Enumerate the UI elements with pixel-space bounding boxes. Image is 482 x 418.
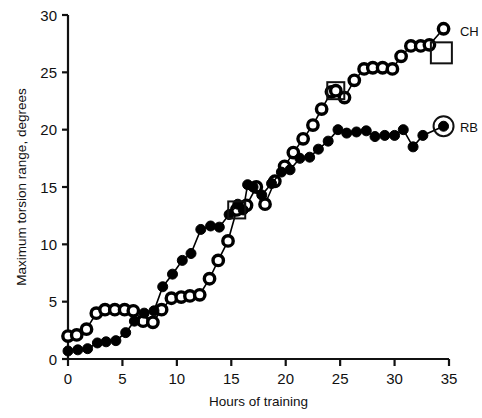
data-point-rb-13: [186, 249, 196, 259]
data-point-rb-9: [149, 306, 159, 316]
data-point-rb-29: [323, 136, 333, 146]
data-point-rb-23: [267, 179, 277, 189]
data-point-rb-32: [351, 127, 361, 137]
data-point-rb-8: [139, 308, 149, 318]
data-point-rb-21: [248, 182, 258, 192]
data-point-rb-6: [121, 328, 131, 338]
data-point-ch-25: [298, 134, 308, 144]
data-point-rb-33: [361, 126, 371, 136]
data-point-rb-0: [63, 346, 73, 356]
x-tick-label-25: 25: [332, 370, 349, 387]
data-point-ch-2: [81, 324, 91, 334]
data-point-ch-35: [387, 64, 397, 74]
data-point-rb-11: [168, 269, 178, 279]
y-axis-title: Maximum torsion range, degrees: [14, 88, 29, 286]
data-point-rb-10: [158, 282, 168, 292]
data-point-ch-39: [424, 40, 434, 50]
x-tick-label-35: 35: [441, 370, 458, 387]
data-point-ch-7: [128, 306, 138, 316]
y-tick-label-0: 0: [49, 351, 57, 368]
x-tick-label-15: 15: [223, 370, 240, 387]
data-point-ch-26: [308, 120, 318, 130]
y-tick-label-20: 20: [40, 121, 57, 138]
x-tick-label-10: 10: [169, 370, 186, 387]
data-point-rb-22: [257, 190, 267, 200]
y-tick-label-25: 25: [40, 64, 57, 81]
x-tick-label-0: 0: [64, 370, 72, 387]
data-point-ch-21: [260, 199, 270, 209]
data-point-rb-1: [73, 345, 83, 355]
data-point-ch-31: [349, 75, 359, 85]
data-point-rb-7: [129, 316, 139, 326]
data-point-ch-40: [438, 24, 448, 34]
series-label-ch: CH: [460, 24, 479, 39]
data-point-ch-27: [316, 104, 326, 114]
y-tick-label-10: 10: [40, 236, 57, 253]
data-point-rb-36: [390, 130, 400, 140]
data-point-rb-28: [313, 144, 323, 154]
data-point-rb-26: [295, 153, 305, 163]
data-point-rb-19: [238, 205, 248, 215]
data-point-rb-39: [418, 130, 428, 140]
chart-canvas: 051015202530 05101520253035 Hours of tra…: [0, 0, 482, 418]
data-point-rb-12: [177, 255, 187, 265]
data-point-rb-35: [380, 130, 390, 140]
data-point-rb-40: [439, 121, 449, 131]
data-point-rb-2: [83, 344, 93, 354]
y-tick-label-30: 30: [40, 7, 57, 24]
data-point-rb-25: [285, 165, 295, 175]
data-point-ch-15: [204, 274, 214, 284]
data-point-rb-31: [342, 128, 352, 138]
data-point-rb-14: [196, 224, 206, 234]
data-point-rb-16: [214, 222, 224, 232]
torsion-range-line-chart: 051015202530 05101520253035 Hours of tra…: [0, 0, 482, 418]
data-point-rb-37: [398, 125, 408, 135]
data-point-rb-5: [111, 336, 121, 346]
data-point-ch-17: [223, 236, 233, 246]
data-point-rb-38: [408, 142, 418, 152]
series-label-rb: RB: [460, 120, 478, 135]
x-tick-label-30: 30: [386, 370, 403, 387]
data-point-ch-36: [396, 51, 406, 61]
x-axis-title: Hours of training: [209, 394, 308, 409]
x-tick-label-20: 20: [277, 370, 294, 387]
data-point-rb-34: [370, 132, 380, 142]
data-point-ch-16: [213, 255, 223, 265]
y-tick-label-15: 15: [40, 179, 57, 196]
x-tick-label-5: 5: [118, 370, 126, 387]
data-point-rb-4: [101, 337, 111, 347]
y-tick-label-5: 5: [49, 293, 57, 310]
data-point-ch-9: [148, 317, 158, 327]
data-point-ch-14: [195, 290, 205, 300]
data-point-rb-27: [305, 152, 315, 162]
